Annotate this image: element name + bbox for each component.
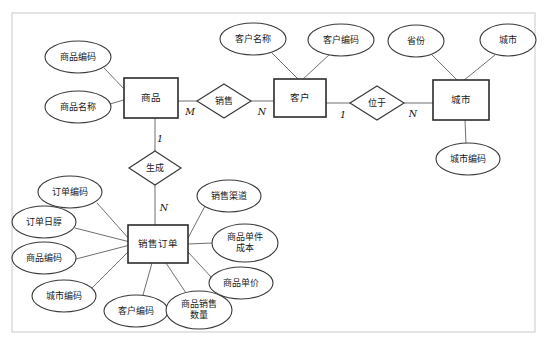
attribute-label: 商品销售 xyxy=(181,298,217,309)
attribute-label: 订单日朜 xyxy=(26,216,62,227)
attribute-label: 城市 xyxy=(499,34,517,45)
entity-label: 销售订单 xyxy=(138,238,178,249)
entity-customer[interactable]: 客户 xyxy=(274,79,326,117)
attribute-province[interactable]: 省份 xyxy=(388,25,444,57)
attribute-label: 客户名称 xyxy=(235,33,271,44)
relationship-label: 生成 xyxy=(146,162,164,173)
attribute-label: 数量 xyxy=(190,309,208,320)
attribute-order-code[interactable]: 订单编码 xyxy=(38,176,102,208)
attribute-label: 省份 xyxy=(407,35,425,46)
entity-city[interactable]: 城市 xyxy=(433,80,489,120)
attribute-sale-quantity[interactable]: 商品销售数量 xyxy=(166,291,232,329)
attribute-customer-name[interactable]: 客户名称 xyxy=(220,23,286,55)
entity-label: 商品 xyxy=(141,92,161,103)
generate-order-card: N xyxy=(159,202,169,213)
attribute-label: 商品名称 xyxy=(60,101,96,112)
locate-customer-card: 1 xyxy=(340,109,346,120)
locate-city-card: N xyxy=(408,108,418,119)
attribute-label: 销售渠道 xyxy=(211,190,247,201)
attribute-sale-channel[interactable]: 销售渠道 xyxy=(197,180,261,212)
generate-product-card: 1 xyxy=(157,133,163,144)
attribute-label: 商品编码 xyxy=(60,51,96,62)
attribute-order-date[interactable]: 订单日朜 xyxy=(12,206,76,238)
attribute-order-product-code[interactable]: 商品编码 xyxy=(12,242,76,274)
attribute-label: 客户编码 xyxy=(118,305,154,316)
entity-label: 城市 xyxy=(451,94,471,105)
attribute-customer-code[interactable]: 客户编码 xyxy=(308,24,374,56)
attribute-label: 客户编码 xyxy=(323,34,359,45)
attribute-label: 商品编码 xyxy=(26,252,62,263)
attribute-label: 商品单价 xyxy=(223,277,259,288)
attribute-order-city-code[interactable]: 城市编码 xyxy=(32,280,96,312)
attribute-product-code[interactable]: 商品编码 xyxy=(45,41,111,73)
attribute-unit-cost[interactable]: 商品单件成本 xyxy=(212,224,278,262)
attribute-label: 城市编码 xyxy=(46,290,82,301)
attribute-unit-price[interactable]: 商品单价 xyxy=(209,267,273,299)
entity-label: 客户 xyxy=(290,92,310,103)
attribute-product-name[interactable]: 商品名称 xyxy=(45,91,111,123)
attribute-order-customer-code[interactable]: 客户编码 xyxy=(104,295,168,327)
attribute-label: 成本 xyxy=(236,242,254,253)
attribute-label: 城市编码 xyxy=(450,153,486,164)
er-diagram-container: 商品编码商品名称客户名称客户编码省份城市城市编码订单编码订单日朜商品编码城市编码… xyxy=(0,0,547,346)
attribute-city-code[interactable]: 城市编码 xyxy=(436,143,500,175)
er-diagram-canvas: 商品编码商品名称客户名称客户编码省份城市城市编码订单编码订单日朜商品编码城市编码… xyxy=(0,0,547,346)
relationship-label: 销售 xyxy=(215,95,233,106)
relationship-label: 位于 xyxy=(368,97,386,108)
attribute-city-name[interactable]: 城市 xyxy=(480,24,536,56)
sell-customer-card: N xyxy=(257,106,267,117)
entity-product[interactable]: 商品 xyxy=(124,78,178,118)
entity-order[interactable]: 销售订单 xyxy=(128,225,188,263)
attribute-label: 订单编码 xyxy=(52,186,88,197)
sell-product-card: M xyxy=(184,106,195,117)
attribute-label: 商品单件 xyxy=(227,231,263,242)
